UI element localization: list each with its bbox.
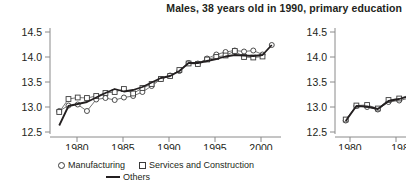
x-tick-label: 1985 — [111, 142, 135, 150]
y-tick-label: 13.5 — [22, 76, 43, 88]
data-series-group-right — [343, 90, 406, 123]
x-tick-label: 1990 — [157, 142, 181, 150]
plot-area-right: 14.5 14.0 13.5 13.0 12.5 1980 198 — [290, 0, 406, 150]
y-tick-label: 13.5 — [307, 76, 328, 88]
y-tick-label: 13.0 — [307, 101, 328, 113]
plot-area-left: 14.5 14.0 13.5 13.0 12.5 1980 1985 1990 … — [0, 0, 290, 150]
legend-label: Others — [123, 172, 150, 182]
x-tick-label: 1980 — [338, 142, 362, 150]
data-point-circle — [112, 98, 117, 103]
y-tick-label: 12.5 — [22, 126, 43, 138]
y-tick-label: 14.5 — [22, 26, 43, 38]
data-point-square — [66, 97, 71, 102]
x-tick-label: 1980 — [65, 142, 89, 150]
data-point-square — [131, 91, 136, 96]
legend-item-others: Others — [106, 172, 150, 182]
chart-panel-left: 14.5 14.0 13.5 13.0 12.5 1980 1985 1990 … — [0, 0, 290, 196]
data-point-square — [85, 96, 90, 101]
data-point-circle — [103, 96, 108, 101]
y-axis-left: 14.5 14.0 13.5 13.0 12.5 — [22, 26, 50, 138]
y-tick-label: 14.5 — [307, 26, 328, 38]
data-point-circle — [251, 48, 256, 53]
legend-label: Manufacturing — [68, 160, 125, 170]
chart-panel-right: 14.5 14.0 13.5 13.0 12.5 1980 198 Low — [290, 0, 406, 196]
data-point-circle — [84, 109, 89, 114]
x-tick-label: 198 — [391, 142, 406, 150]
legend-item-manufacturing: Manufacturing — [58, 160, 125, 170]
x-axis-right: 1980 198 — [335, 137, 406, 150]
legend-left: Manufacturing Services and Construction … — [58, 160, 268, 182]
y-tick-label: 12.5 — [307, 126, 328, 138]
data-point-square — [57, 110, 62, 115]
legend-item-services-and-construction: Services and Construction — [139, 160, 254, 170]
circle-marker-icon — [58, 162, 65, 169]
data-point-circle — [121, 95, 126, 100]
y-axis-right: 14.5 14.0 13.5 13.0 12.5 — [307, 26, 335, 138]
x-axis-left: 1980 1985 1990 1995 2000 — [50, 137, 281, 150]
x-tick-label: 1995 — [203, 142, 227, 150]
y-tick-label: 13.0 — [22, 101, 43, 113]
data-point-square — [232, 49, 237, 54]
data-series-group-left — [57, 43, 275, 126]
y-tick-label: 14.0 — [307, 51, 328, 63]
y-tick-label: 14.0 — [22, 51, 43, 63]
square-marker-icon — [139, 162, 146, 169]
line-marker-icon — [106, 176, 120, 178]
series-line — [59, 45, 272, 126]
data-point-circle — [242, 49, 247, 54]
data-point-square — [75, 95, 80, 100]
legend-label: Services and Construction — [149, 160, 254, 170]
x-tick-label: 2000 — [249, 142, 273, 150]
